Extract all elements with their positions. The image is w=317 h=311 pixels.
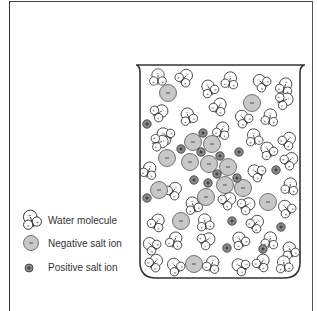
- negative-salt-ion: [160, 85, 177, 102]
- water-molecule: −++: [280, 176, 299, 195]
- positive-salt-ion: [197, 148, 205, 156]
- positive-salt-ion: [199, 129, 207, 137]
- positive-salt-ion: [190, 176, 198, 184]
- water-molecule: −++: [229, 229, 252, 252]
- water-molecule: −++: [173, 65, 196, 88]
- water-molecule: −++: [260, 107, 279, 126]
- negative-salt-ion: [204, 136, 221, 153]
- water-molecule: −++: [196, 229, 219, 252]
- water-molecule: −++: [195, 212, 214, 231]
- water-molecule: −++: [251, 251, 274, 274]
- positive-salt-ion: [223, 244, 231, 252]
- positive-salt-ion: [213, 170, 221, 178]
- positive-salt-ion: [259, 245, 267, 253]
- legend-label-negative-ion: Negative salt ion: [48, 238, 122, 249]
- positive-salt-ion: [25, 264, 33, 272]
- water-molecule: −++: [229, 255, 252, 278]
- positive-salt-ion: [233, 174, 241, 182]
- positive-salt-ion: [272, 166, 280, 174]
- negative-salt-ion: [217, 177, 234, 194]
- water-molecule: −++: [244, 211, 267, 234]
- negative-salt-ion: [220, 159, 237, 176]
- water-molecule: −++: [150, 69, 167, 85]
- water-molecule: −++: [163, 254, 186, 277]
- water-molecule: −++: [276, 128, 299, 151]
- negative-salt-ion: [24, 236, 39, 251]
- legend-label-water: Water molecule: [48, 215, 117, 226]
- positive-salt-ion: [177, 145, 185, 153]
- negative-salt-ion: [260, 194, 277, 211]
- negative-salt-ion: [182, 154, 199, 171]
- negative-salt-ion: [198, 189, 215, 206]
- water-molecule: −++: [177, 105, 198, 126]
- positive-salt-ion: [228, 217, 236, 225]
- positive-salt-ion: [204, 179, 212, 187]
- positive-salt-ion: [143, 120, 151, 128]
- water-molecule: −++: [244, 127, 263, 146]
- negative-salt-ion: [173, 213, 190, 230]
- positive-salt-ion: [277, 223, 285, 231]
- negative-salt-ion: [151, 182, 168, 199]
- legend-label-positive-ion: Positive salt ion: [48, 262, 117, 273]
- water-molecule: −++: [274, 196, 297, 219]
- water-molecule: −++: [143, 250, 166, 273]
- legend-icons: −++: [19, 207, 43, 272]
- water-molecule: −++: [201, 253, 222, 274]
- water-molecule: −++: [149, 101, 172, 124]
- water-molecule: −++: [164, 229, 185, 250]
- water-molecule: −++: [220, 70, 239, 89]
- water-molecule: −++: [139, 233, 162, 256]
- positive-salt-ion: [216, 152, 224, 160]
- svg-text:−: −: [157, 70, 160, 76]
- water-molecule: −++: [208, 95, 231, 118]
- beaker-contents: −++−++−++−++−++−++−++−++−++−++−++−++−++−…: [138, 65, 301, 277]
- negative-salt-ion: [244, 95, 261, 112]
- positive-salt-ion: [143, 194, 151, 202]
- water-molecule: −++: [198, 77, 221, 100]
- water-molecule: −++: [146, 211, 169, 234]
- svg-text:+: +: [161, 80, 164, 85]
- water-molecule: −++: [245, 161, 268, 184]
- water-molecule: −++: [278, 148, 301, 171]
- negative-salt-ion: [186, 256, 203, 273]
- positive-salt-ion: [235, 148, 243, 156]
- water-molecule: −++: [249, 70, 272, 93]
- water-molecule: −++: [236, 194, 259, 217]
- water-molecule: −++: [19, 207, 43, 230]
- water-molecule: −++: [138, 159, 159, 180]
- negative-salt-ion: [159, 150, 176, 167]
- svg-text:+: +: [152, 80, 155, 85]
